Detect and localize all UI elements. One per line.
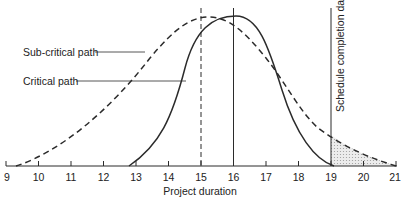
schedule-completion-label: Schedule completion date [334,0,346,112]
x-axis-title: Project duration [163,185,237,197]
tick-label: 15 [195,171,207,183]
tick-label: 11 [66,171,77,183]
tick-label: 20 [358,171,370,183]
tick-label: 12 [98,171,110,183]
tick-label: 10 [33,171,45,183]
tick-label: 16 [228,171,240,183]
critical-path-label: Critical path [23,75,79,87]
tick-label: 19 [325,171,337,183]
tick-label: 14 [163,171,175,183]
chart-canvas: 9 10 11 12 13 14 15 16 17 18 19 20 21 Pr… [0,0,401,198]
tick-label: 21 [389,171,401,183]
tick-label: 18 [293,171,305,183]
tick-label: 9 [4,171,10,183]
tick-label: 13 [130,171,142,183]
critical-path-curve [129,16,334,166]
x-axis-tick-labels: 9 10 11 12 13 14 15 16 17 18 19 20 21 [4,171,401,183]
subcritical-path-label: Sub-critical path [23,46,98,58]
tick-label: 17 [260,171,272,183]
